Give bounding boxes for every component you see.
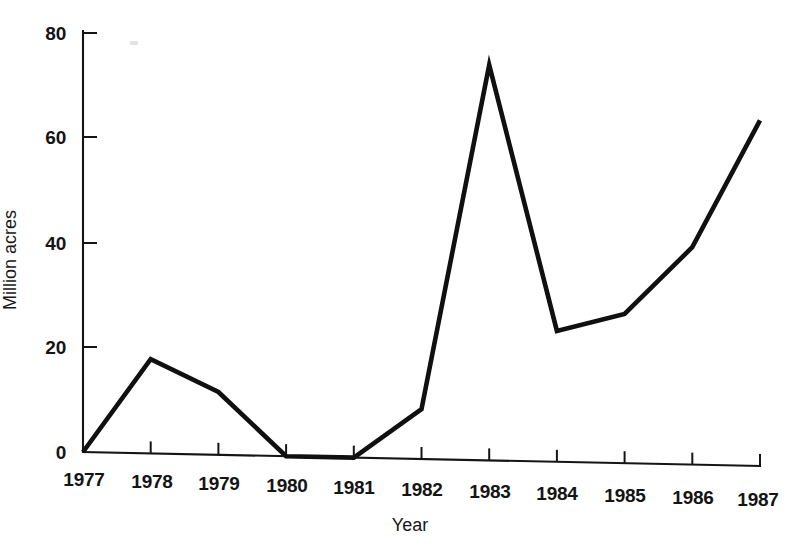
x-tick-label-1983: 1983 [469,482,510,501]
x-tick-label-1978: 1978 [131,472,172,491]
line-chart-plot [0,0,792,547]
x-tick-label-1982: 1982 [401,480,442,499]
y-tick-label-80: 80 [30,24,66,43]
x-tick-label-1984: 1984 [536,484,577,503]
y-axis-ticks [83,33,97,347]
data-series-line [83,65,760,458]
x-axis-title: Year [392,516,428,534]
x-tick-label-1979: 1979 [198,474,239,493]
x-tick-label-1987: 1987 [737,490,778,509]
y-axis-title: Million acres [1,210,19,310]
x-axis-ticks [151,441,760,466]
x-tick-label-1981: 1981 [333,478,374,497]
y-tick-label-20: 20 [30,338,66,357]
x-tick-label-1985: 1985 [604,486,645,505]
y-tick-label-0: 0 [38,443,66,462]
chart-figure: 0 20 40 60 80 1977 1978 1979 1980 1981 1… [0,0,792,547]
x-tick-label-1977: 1977 [63,470,104,489]
y-tick-label-60: 60 [30,128,66,147]
x-tick-label-1980: 1980 [266,476,307,495]
y-tick-label-40: 40 [30,234,66,253]
x-tick-label-1986: 1986 [672,488,713,507]
scan-speck-artifact [130,41,138,45]
